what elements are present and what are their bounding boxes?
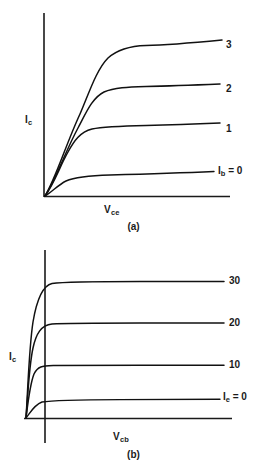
y-axis-label-a: Ic [25,115,32,125]
curve-label-b-20: 20 [229,318,240,328]
curve-b-20 [26,323,224,418]
x-axis-label-a-main: V [104,204,111,215]
x-axis-label-b: Vcb [113,432,129,442]
curve-label-b-zero: Ie = 0 [223,392,247,402]
caption-b: (b) [0,450,267,460]
x-axis-label-b-main: V [113,431,120,442]
x-axis-label-a: Vce [104,205,120,215]
curve-label-a-1: 1 [226,124,232,134]
curve-label-b-30: 30 [229,276,240,286]
curve-label-a-zero: Ib = 0 [218,166,242,176]
curve-b-10 [26,365,224,418]
curve-label-a-zero-sub: b [221,169,226,178]
x-axis-label-a-sub: ce [111,208,120,217]
curve-label-b-zero-sub: e [226,395,230,404]
curve-b-0 [26,399,220,418]
curve-label-a-zero-tail: = 0 [225,165,242,176]
figure-panel-a: Ic Vce 3 2 1 Ib = 0 (a) [0,0,267,240]
curve-a-0 [45,172,214,197]
figure-panel-b: Ic Vcb 30 20 10 Ie = 0 (b) [0,238,267,470]
plot-a-svg [0,0,267,240]
y-axis-label-b-sub: c [12,355,16,364]
curve-label-b-zero-tail: = 0 [230,391,247,402]
curve-label-a-3: 3 [226,40,232,50]
y-axis-label-a-sub: c [28,118,32,127]
y-axis-label-b: Ic [9,352,16,362]
curve-b-30 [26,282,224,419]
curve-label-a-2: 2 [226,84,232,94]
curve-label-b-10: 10 [229,360,240,370]
caption-a: (a) [0,222,267,232]
x-axis-label-b-sub: cb [120,435,129,444]
plot-b-svg [0,238,267,470]
